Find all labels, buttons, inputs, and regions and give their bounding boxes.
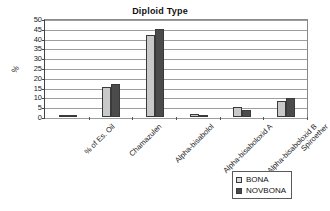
legend-item[interactable]: BONA (236, 174, 286, 185)
y-tick-mark (42, 30, 45, 31)
bar-bona[interactable] (146, 35, 155, 117)
y-tick-label: 25 (34, 65, 42, 73)
bar-group (90, 21, 134, 117)
legend: BONANOVBONA (232, 171, 292, 199)
y-tick-label: 15 (34, 85, 42, 93)
y-tick-label: 30 (34, 55, 42, 63)
bar-novbona[interactable] (242, 110, 251, 117)
x-tick-mark (132, 117, 133, 120)
legend-swatch-icon (236, 188, 242, 194)
legend-label: BONA (246, 175, 269, 184)
y-tick-label: 45 (34, 26, 42, 34)
y-tick-mark (42, 40, 45, 41)
x-tick-mark (89, 117, 90, 120)
bar-group (264, 21, 308, 117)
y-tick-mark (42, 69, 45, 70)
bar-group (46, 21, 90, 117)
y-tick-mark (42, 108, 45, 109)
legend-swatch-icon (236, 177, 242, 183)
y-tick-mark (42, 89, 45, 90)
bar-group (177, 21, 221, 117)
x-axis-label: Alpha-bisabolol (173, 122, 216, 165)
bar-group (133, 21, 177, 117)
bar-group (221, 21, 265, 117)
y-tick-mark (42, 20, 45, 21)
x-axis-label: Alpha-bisaboloxid B (265, 122, 318, 175)
plot-area: 05101520253035404550 (44, 19, 308, 119)
bar-bona[interactable] (233, 107, 242, 117)
chart-title: Diploid Type (0, 6, 320, 16)
y-tick-mark (42, 79, 45, 80)
bar-bona[interactable] (59, 115, 68, 117)
y-tick-mark (42, 59, 45, 60)
y-axis-title: % (10, 58, 25, 75)
x-tick-mark (263, 117, 264, 120)
x-axis-label: Chamazulen (127, 122, 163, 158)
bar-bona[interactable] (277, 101, 286, 118)
y-tick-label: 20 (34, 75, 42, 83)
y-tick-mark (42, 118, 45, 119)
legend-item[interactable]: NOVBONA (236, 185, 286, 196)
y-tick-label: 10 (34, 94, 42, 102)
bar-bona[interactable] (190, 114, 199, 117)
bar-novbona[interactable] (286, 98, 295, 117)
bar-novbona[interactable] (111, 84, 120, 117)
legend-label: NOVBONA (246, 186, 286, 195)
y-tick-mark (42, 98, 45, 99)
bar-novbona[interactable] (68, 115, 77, 117)
x-tick-mark (220, 117, 221, 120)
x-axis-label: % of Es. Oil (83, 122, 117, 156)
y-tick-mark (42, 49, 45, 50)
bar-bona[interactable] (102, 87, 111, 117)
bar-novbona[interactable] (155, 29, 164, 117)
y-tick-label: 40 (34, 36, 42, 44)
bars-layer (46, 21, 306, 117)
y-tick-label: 35 (34, 45, 42, 53)
x-tick-mark (176, 117, 177, 120)
y-tick-label: 50 (34, 16, 42, 24)
bar-novbona[interactable] (199, 115, 208, 117)
x-tick-mark (307, 117, 308, 120)
